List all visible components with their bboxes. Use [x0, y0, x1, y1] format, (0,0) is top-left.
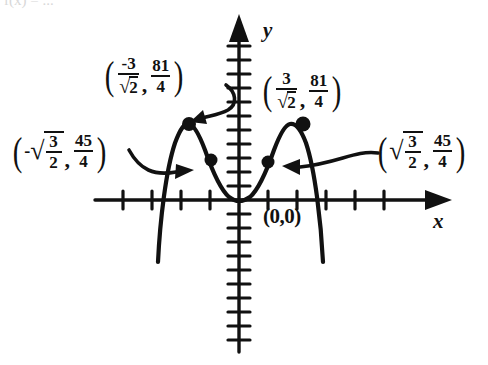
fraction-three-halves: 3 2	[403, 133, 423, 172]
paren-close: )	[174, 60, 184, 91]
fraction-x-right-max: 3 √2	[274, 70, 298, 112]
arrow-to-right-inflection	[282, 153, 378, 175]
sqrt-three-halves: √ 3 2	[389, 131, 422, 172]
comma: ,	[423, 149, 432, 172]
arrow-to-left-inflection	[129, 150, 194, 179]
fraction-y-right-max: 81 4	[307, 72, 330, 111]
label-right-maximum: ( 3 √2 , 81 4 )	[261, 70, 344, 112]
label-left-maximum: ( -3 √2 , 81 4 )	[103, 55, 186, 97]
paren-open: (	[263, 75, 273, 106]
point-right-inflection	[262, 156, 275, 169]
y-axis	[228, 14, 250, 352]
quartic-graph-figure: f(x) = ...	[0, 0, 488, 365]
fraction-y-right-infl: 45 4	[431, 132, 454, 171]
paren-open: (	[13, 136, 23, 167]
point-right-maximum	[296, 117, 311, 132]
fraction-three-halves: 3 2	[44, 133, 64, 172]
paren-open: (	[378, 136, 388, 167]
sqrt-2: √2	[277, 91, 295, 111]
comma: ,	[141, 74, 150, 97]
graph-canvas	[0, 0, 488, 365]
x-axis-arrowhead	[425, 190, 452, 210]
y-axis-arrowhead	[229, 14, 249, 42]
paren-close: )	[332, 75, 342, 106]
label-right-inflection: ( √ 3 2 , 45 4 )	[376, 131, 467, 172]
paren-close: )	[97, 136, 107, 167]
fraction-x-left-max: -3 √2	[116, 55, 140, 97]
sqrt-three-halves: √ 3 2	[30, 131, 63, 172]
fraction-y-left-infl: 45 4	[72, 132, 95, 171]
sqrt-2: √2	[119, 76, 137, 96]
paren-close: )	[456, 136, 466, 167]
fraction-y-left-max: 81 4	[149, 57, 172, 96]
label-left-inflection: ( - √ 3 2 , 45 4 )	[11, 131, 108, 172]
x-axis-label: x	[433, 211, 444, 232]
arrow-to-left-maximum	[190, 85, 235, 124]
comma: ,	[299, 89, 308, 112]
origin-label: (0,0)	[263, 206, 301, 227]
y-axis-label: y	[263, 20, 272, 41]
comma: ,	[64, 149, 73, 172]
point-left-inflection	[205, 154, 218, 167]
paren-open: (	[105, 60, 115, 91]
